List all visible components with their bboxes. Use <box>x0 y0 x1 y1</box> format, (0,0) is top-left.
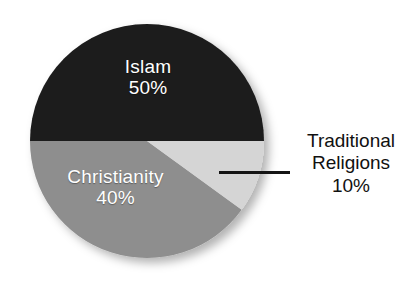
pie-label-christianity-percent: 40% <box>0 187 231 208</box>
pie-label-islam: Islam 50% <box>0 56 296 99</box>
pie-label-christianity: Christianity 40% <box>0 166 231 209</box>
pie-label-traditional-religions-name-line2: Religions <box>282 152 420 174</box>
pie-label-traditional-religions: Traditional Religions 10% <box>282 130 420 197</box>
callout-leader-line <box>219 171 290 174</box>
pie-label-christianity-name: Christianity <box>67 166 163 187</box>
pie-label-traditional-religions-name-line1: Traditional <box>282 130 420 152</box>
pie-label-traditional-religions-percent: 10% <box>282 175 420 197</box>
pie-label-islam-name: Islam <box>125 56 171 77</box>
pie-chart-figure: Islam 50% Christianity 40% Traditional R… <box>0 0 420 283</box>
pie-label-islam-percent: 50% <box>0 77 296 98</box>
